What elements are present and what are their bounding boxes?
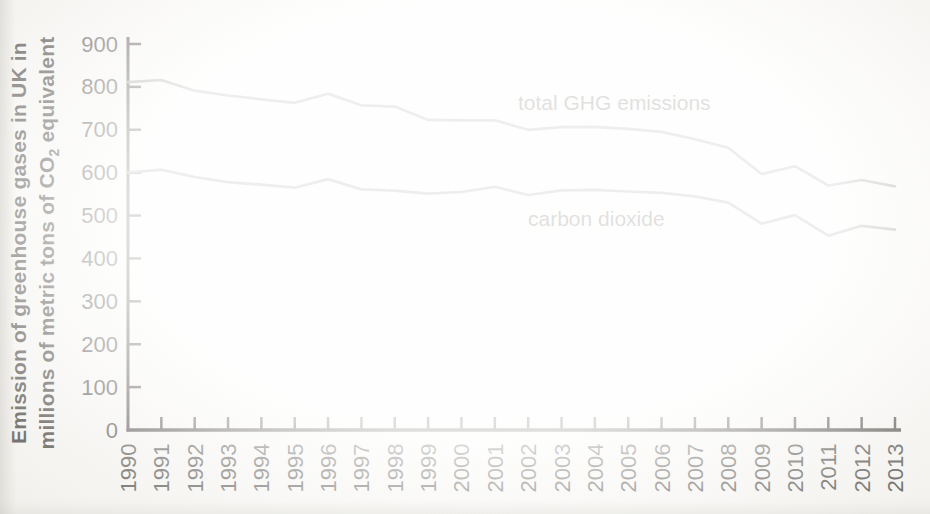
y-axis-title-line2-post: equivalent	[35, 37, 58, 149]
y-tick-label-900: 900	[81, 32, 118, 57]
x-tick-label-1994: 1994	[249, 444, 274, 493]
x-tick-label-2009: 2009	[750, 444, 775, 493]
x-tick-label-1992: 1992	[183, 444, 208, 493]
series-label-0: total GHG emissions	[518, 91, 711, 114]
x-tick-label-2007: 2007	[683, 444, 708, 493]
x-tick-label-2000: 2000	[449, 444, 474, 493]
x-tick-label-2006: 2006	[650, 444, 675, 493]
y-tick-label-300: 300	[81, 289, 118, 314]
x-tick-label-2008: 2008	[716, 444, 741, 493]
y-tick-label-100: 100	[81, 375, 118, 400]
y-axis-title-line1: Emission of greenhouse gases in UK in	[5, 13, 33, 473]
y-tick-label-0: 0	[106, 418, 118, 443]
emissions-figure: 0100200300400500600700800900199019911992…	[0, 0, 930, 514]
series-label-1: carbon dioxide	[528, 207, 665, 230]
y-tick-label-700: 700	[81, 117, 118, 142]
x-tick-label-1995: 1995	[283, 444, 308, 493]
x-tick-label-1993: 1993	[216, 444, 241, 493]
x-tick-label-1991: 1991	[149, 444, 174, 493]
x-tick-label-2001: 2001	[483, 444, 508, 493]
x-tick-label-1999: 1999	[416, 444, 441, 493]
y-axis-title-line2-pre: millions of metric tons of CO	[35, 157, 58, 450]
x-tick-label-2012: 2012	[850, 444, 875, 493]
x-tick-label-2010: 2010	[783, 444, 808, 493]
x-tick-label-2004: 2004	[583, 444, 608, 493]
y-tick-label-800: 800	[81, 74, 118, 99]
y-axis-title-line2: millions of metric tons of CO2 equivalen…	[33, 13, 68, 473]
co2-subscript: 2	[46, 149, 62, 157]
x-tick-label-2005: 2005	[616, 444, 641, 493]
series-line-0-total-GHG-emissions	[128, 80, 895, 186]
series-line-1-carbon-dioxide	[128, 170, 895, 236]
x-tick-label-1998: 1998	[383, 444, 408, 493]
x-tick-label-2002: 2002	[516, 444, 541, 493]
y-tick-label-400: 400	[81, 246, 118, 271]
x-tick-label-1996: 1996	[316, 444, 341, 493]
y-tick-label-200: 200	[81, 332, 118, 357]
emissions-line-chart: 0100200300400500600700800900199019911992…	[0, 0, 930, 514]
scanned-page: { "figure": { "background": "#fbfaf7", "…	[0, 0, 930, 514]
y-tick-label-500: 500	[81, 203, 118, 228]
y-tick-label-600: 600	[81, 160, 118, 185]
x-tick-label-1990: 1990	[116, 444, 141, 493]
x-tick-label-1997: 1997	[349, 444, 374, 493]
x-tick-label-2011: 2011	[816, 444, 841, 491]
x-tick-label-2003: 2003	[550, 444, 575, 493]
y-axis-title: Emission of greenhouse gases in UK in mi…	[5, 13, 63, 473]
x-tick-label-2013: 2013	[883, 444, 908, 493]
